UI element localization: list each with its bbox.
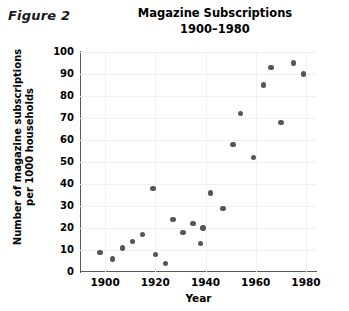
y-axis-title: Number of magazine subscriptions per 100…	[12, 32, 36, 262]
data-point	[230, 142, 235, 147]
y-tick-label: 10	[48, 245, 74, 255]
gridline-vertical	[206, 52, 207, 272]
y-tick-label: 100	[48, 47, 74, 57]
gridline-horizontal	[80, 140, 316, 141]
gridline-vertical	[155, 52, 156, 272]
data-point	[238, 111, 243, 116]
data-point	[153, 252, 158, 257]
y-tick-label: 30	[48, 201, 74, 211]
plot-area	[80, 52, 316, 272]
data-point	[291, 60, 296, 65]
data-point	[261, 82, 266, 87]
x-tick-label: 1920	[132, 276, 178, 288]
gridline-horizontal	[80, 74, 316, 75]
chart-title: Magazine Subscriptions	[110, 5, 320, 21]
y-tick-label: 70	[48, 113, 74, 123]
chart-title-block: Magazine Subscriptions 1900–1980	[110, 5, 320, 38]
gridline-vertical	[105, 52, 106, 272]
y-tick-label: 60	[48, 135, 74, 145]
gridline-horizontal	[80, 52, 316, 53]
y-tick-label: 90	[48, 69, 74, 79]
gridline-horizontal	[80, 206, 316, 207]
gridline-horizontal	[80, 162, 316, 163]
y-axis-title-line2: per 1000 households	[24, 32, 36, 262]
data-point	[120, 245, 125, 250]
data-point	[163, 261, 168, 266]
gridline-vertical	[306, 52, 307, 272]
x-tick-label: 1900	[82, 276, 128, 288]
data-point	[130, 239, 135, 244]
data-point	[220, 206, 225, 211]
data-point	[180, 230, 185, 235]
data-point	[170, 217, 175, 222]
data-point	[140, 232, 145, 237]
y-tick-label: 80	[48, 91, 74, 101]
data-point	[190, 221, 195, 226]
data-point	[208, 190, 213, 195]
gridline-horizontal	[80, 250, 316, 251]
gridline-vertical	[256, 52, 257, 272]
y-tick-label: 0	[48, 267, 74, 277]
y-axis-ticks: 0102030405060708090100	[48, 0, 74, 311]
chart-subtitle: 1900–1980	[110, 21, 320, 38]
gridline-horizontal	[80, 96, 316, 97]
data-point	[150, 186, 155, 191]
x-tick-label: 1980	[283, 276, 329, 288]
data-point	[97, 250, 102, 255]
gridline-horizontal	[80, 228, 316, 229]
data-point	[200, 225, 205, 230]
y-tick-label: 40	[48, 179, 74, 189]
x-axis-title: Year	[80, 292, 317, 304]
data-point	[198, 241, 203, 246]
data-point	[278, 120, 283, 125]
data-point	[268, 65, 273, 70]
x-tick-label: 1940	[183, 276, 229, 288]
gridline-horizontal	[80, 184, 316, 185]
gridline-horizontal	[80, 118, 316, 119]
y-tick-label: 20	[48, 223, 74, 233]
data-point	[110, 256, 115, 261]
y-axis-title-line1: Number of magazine subscriptions	[12, 32, 24, 262]
x-tick-label: 1960	[233, 276, 279, 288]
data-point	[301, 71, 306, 76]
y-tick-label: 50	[48, 157, 74, 167]
